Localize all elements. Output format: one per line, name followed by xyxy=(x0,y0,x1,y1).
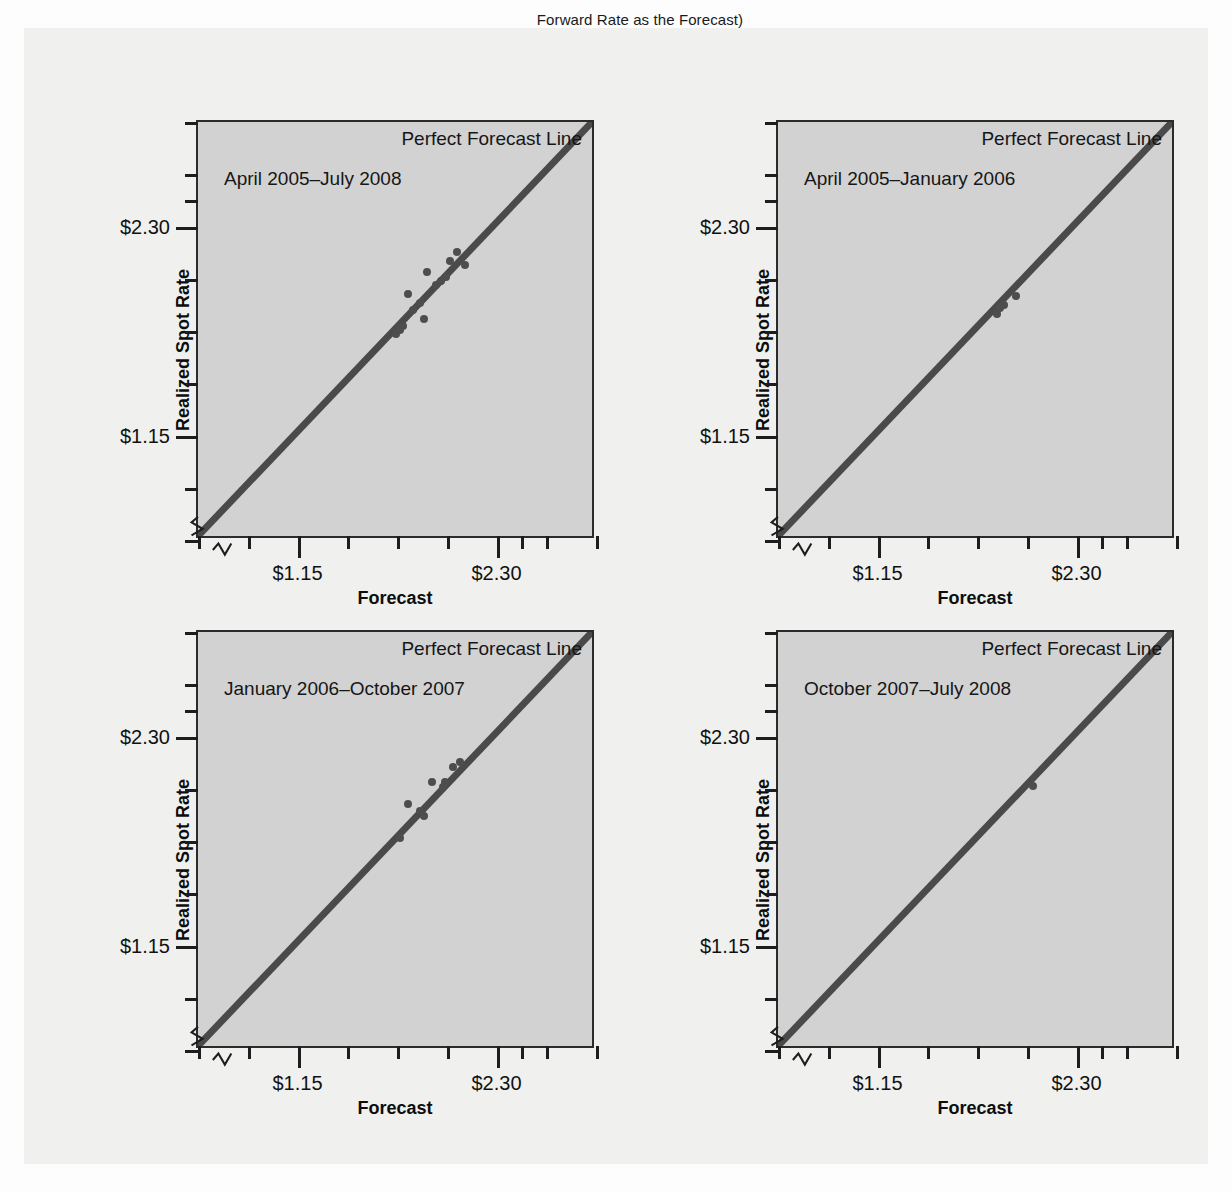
data-point xyxy=(404,290,412,298)
y-axis-break-icon xyxy=(766,514,790,540)
x-axis-break-icon xyxy=(210,538,236,562)
data-point xyxy=(409,306,417,314)
perfect-forecast-label: Perfect Forecast Line xyxy=(401,638,582,660)
x-tick xyxy=(878,1046,881,1068)
data-point xyxy=(399,322,407,330)
x-tick xyxy=(347,1046,350,1059)
y-axis-title: Realized Spot Rate xyxy=(173,779,194,941)
y-tick xyxy=(765,200,778,203)
data-point xyxy=(449,763,457,771)
x-tick xyxy=(497,536,500,558)
y-tick xyxy=(756,436,778,439)
y-tick xyxy=(185,174,198,177)
y-tick-label: $1.15 xyxy=(120,934,170,957)
y-tick xyxy=(765,893,778,896)
y-tick xyxy=(765,331,778,334)
y-tick-label: $2.30 xyxy=(120,725,170,748)
x-tick xyxy=(1027,536,1030,549)
x-tick xyxy=(521,1046,524,1059)
data-point xyxy=(396,834,404,842)
data-point xyxy=(420,315,428,323)
x-tick xyxy=(1101,536,1104,549)
y-tick xyxy=(765,488,778,491)
data-point xyxy=(423,268,431,276)
y-tick xyxy=(176,436,198,439)
plot-area: Perfect Forecast LineJanuary 2006–Octobe… xyxy=(196,630,594,1048)
x-tick xyxy=(977,1046,980,1059)
y-tick xyxy=(765,789,778,792)
data-point xyxy=(446,257,454,265)
x-tick xyxy=(248,536,251,549)
y-tick xyxy=(765,174,778,177)
x-tick xyxy=(1126,536,1129,549)
data-point xyxy=(453,248,461,256)
chart-panel-0: Realized Spot RatePerfect Forecast LineA… xyxy=(84,90,654,610)
x-tick xyxy=(397,1046,400,1059)
y-tick xyxy=(185,122,198,125)
x-tick xyxy=(927,1046,930,1059)
data-point xyxy=(416,299,424,307)
y-tick xyxy=(756,946,778,949)
x-tick xyxy=(596,536,599,549)
x-tick-label: $1.15 xyxy=(272,1072,322,1095)
y-tick xyxy=(765,632,778,635)
data-point xyxy=(461,261,469,269)
data-point xyxy=(442,273,450,281)
x-tick xyxy=(1176,1046,1179,1059)
y-tick-label: $2.30 xyxy=(700,725,750,748)
y-tick xyxy=(176,227,198,230)
x-tick xyxy=(497,1046,500,1068)
x-tick-label: $2.30 xyxy=(1051,562,1101,585)
y-tick xyxy=(765,279,778,282)
y-tick xyxy=(765,710,778,713)
x-tick xyxy=(521,536,524,549)
x-tick xyxy=(1077,1046,1080,1068)
x-tick xyxy=(927,536,930,549)
y-tick xyxy=(765,998,778,1001)
period-label: April 2005–July 2008 xyxy=(224,168,401,190)
y-tick xyxy=(185,684,198,687)
y-tick xyxy=(185,998,198,1001)
perfect-forecast-label: Perfect Forecast Line xyxy=(981,638,1162,660)
y-tick xyxy=(765,540,778,543)
x-tick xyxy=(977,536,980,549)
period-label: January 2006–October 2007 xyxy=(224,678,465,700)
y-axis-title: Realized Spot Rate xyxy=(753,779,774,941)
y-tick xyxy=(185,383,198,386)
x-tick xyxy=(1176,536,1179,549)
y-tick xyxy=(185,893,198,896)
x-tick xyxy=(878,536,881,558)
chart-panel-3: Realized Spot RatePerfect Forecast LineO… xyxy=(664,600,1232,1120)
x-axis-break-icon xyxy=(790,538,816,562)
x-tick xyxy=(298,536,301,558)
x-tick-label: $1.15 xyxy=(272,562,322,585)
perfect-forecast-label: Perfect Forecast Line xyxy=(401,128,582,150)
x-tick xyxy=(828,1046,831,1059)
y-tick xyxy=(185,632,198,635)
plot-area: Perfect Forecast LineApril 2005–July 200… xyxy=(196,120,594,538)
y-tick xyxy=(176,946,198,949)
x-tick xyxy=(347,536,350,549)
y-tick xyxy=(185,841,198,844)
y-tick-label: $1.15 xyxy=(700,934,750,957)
data-point xyxy=(404,800,412,808)
y-axis-break-icon xyxy=(186,1024,210,1050)
y-tick-label: $1.15 xyxy=(700,424,750,447)
y-tick xyxy=(765,684,778,687)
y-axis-title: Realized Spot Rate xyxy=(173,269,194,431)
plot-area: Perfect Forecast LineOctober 2007–July 2… xyxy=(776,630,1174,1048)
y-tick xyxy=(756,737,778,740)
data-point xyxy=(428,778,436,786)
y-tick-label: $1.15 xyxy=(120,424,170,447)
y-tick xyxy=(765,841,778,844)
y-tick xyxy=(185,279,198,282)
y-tick xyxy=(756,227,778,230)
data-point xyxy=(1012,292,1020,300)
x-axis-break-icon xyxy=(790,1048,816,1072)
figure-plate: Forward Rate as the Forecast) Realized S… xyxy=(24,28,1208,1164)
x-tick xyxy=(828,536,831,549)
x-tick-label: $1.15 xyxy=(852,1072,902,1095)
x-tick xyxy=(596,1046,599,1059)
y-tick xyxy=(185,540,198,543)
y-tick xyxy=(185,1050,198,1053)
